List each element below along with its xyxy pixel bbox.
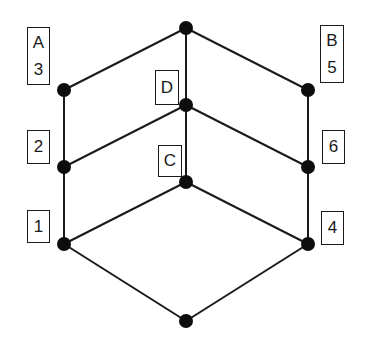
edge-n1-bottom [64, 244, 186, 321]
edge-top-B5 [186, 28, 308, 90]
label-6: 6 [322, 130, 345, 164]
node-bottom [179, 314, 193, 328]
label-4: 4 [321, 211, 344, 245]
label-2: 2 [27, 130, 50, 164]
node-D [179, 98, 193, 112]
label-text: A [33, 29, 44, 56]
node-B5 [301, 83, 315, 97]
label-text: 5 [327, 54, 336, 81]
node-C [179, 175, 193, 189]
node-n1 [57, 237, 71, 251]
label-D: D [155, 70, 179, 105]
node-A3 [57, 83, 71, 97]
label-text: 3 [34, 56, 43, 83]
label-C: C [158, 145, 182, 177]
label-text: 2 [34, 136, 43, 158]
node-top [179, 21, 193, 35]
label-A3: A3 [27, 27, 50, 85]
node-n2 [57, 160, 71, 174]
lattice-diagram [0, 0, 366, 345]
label-text: B [326, 27, 337, 54]
label-text: 6 [329, 136, 338, 158]
edge-C-n4 [186, 182, 308, 244]
label-text: 4 [328, 217, 337, 239]
node-n6 [301, 160, 315, 174]
label-1: 1 [27, 210, 50, 243]
lattice-edges [64, 28, 308, 321]
edge-C-n1 [64, 182, 186, 244]
edge-D-n6 [186, 105, 308, 167]
label-text: 1 [34, 216, 43, 238]
edge-n4-bottom [186, 244, 308, 321]
label-text: C [164, 150, 176, 172]
node-n4 [301, 237, 315, 251]
label-B5: B5 [320, 25, 344, 83]
label-text: D [161, 77, 173, 99]
